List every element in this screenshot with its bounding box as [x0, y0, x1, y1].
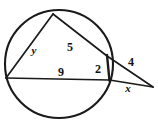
label-x: x: [125, 83, 131, 94]
short-chord-segment-2: [107, 55, 110, 81]
label-y: y: [32, 45, 37, 56]
geometry-figure: y 5 9 2 4 x: [0, 0, 158, 122]
secant-upper-inner-segment-5: [53, 14, 107, 56]
geometry-canvas: [0, 0, 158, 122]
label-9: 9: [58, 66, 64, 78]
label-5: 5: [67, 41, 73, 53]
label-4: 4: [128, 56, 134, 68]
label-2: 2: [95, 63, 101, 75]
chord-y-segment: [6, 14, 53, 78]
